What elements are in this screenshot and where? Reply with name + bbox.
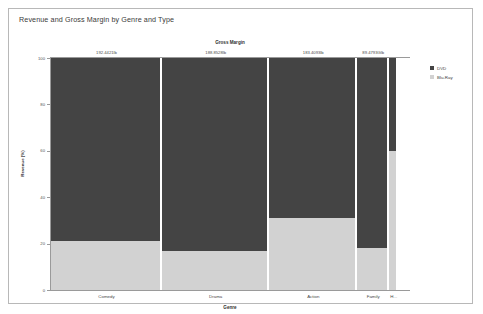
mosaic-segment-blu-ray[interactable] xyxy=(389,151,396,290)
y-tick-label: 100 xyxy=(38,56,45,61)
mosaic-column[interactable] xyxy=(51,58,160,290)
x-tick-label: Family xyxy=(357,294,389,299)
y-tick-label: 40 xyxy=(40,195,45,200)
mosaic-segment-dvd[interactable] xyxy=(389,58,396,151)
y-tick-mark xyxy=(47,151,50,152)
mosaic-plot xyxy=(51,58,409,290)
mosaic-column[interactable] xyxy=(389,58,396,290)
legend: DVDBlu-Ray xyxy=(430,65,480,83)
legend-swatch-icon xyxy=(430,66,434,70)
column-header-value: 89.4793Glb xyxy=(357,50,389,55)
y-tick-label: 60 xyxy=(40,148,45,153)
x-tick-label: Action xyxy=(269,294,357,299)
x-axis-ticks: ComedyDramaActionFamilyH... xyxy=(51,294,409,303)
legend-label: Blu-Ray xyxy=(437,75,453,80)
y-tick-label: 20 xyxy=(40,241,45,246)
mosaic-segment-dvd[interactable] xyxy=(269,58,355,218)
y-tick-mark xyxy=(47,244,50,245)
y-tick-mark xyxy=(47,104,50,105)
legend-swatch-icon xyxy=(430,75,434,79)
mosaic-segment-blu-ray[interactable] xyxy=(162,251,267,290)
y-tick-label: 80 xyxy=(40,102,45,107)
chart-panel: Revenue and Gross Margin by Genre and Ty… xyxy=(8,8,473,304)
mosaic-segment-blu-ray[interactable] xyxy=(357,248,387,290)
x-axis-line xyxy=(50,290,410,291)
mosaic-column[interactable] xyxy=(269,58,355,290)
x-tick-label: Drama xyxy=(162,294,269,299)
legend-label: DVD xyxy=(437,66,446,71)
legend-item[interactable]: Blu-Ray xyxy=(430,74,480,80)
y-axis-label: Revenue (%) xyxy=(20,134,25,194)
y-tick-label: 0 xyxy=(43,288,45,293)
mosaic-segment-blu-ray[interactable] xyxy=(51,241,160,290)
mosaic-column[interactable] xyxy=(162,58,267,290)
mosaic-segment-blu-ray[interactable] xyxy=(269,218,355,290)
y-axis-ticks: 020406080100 xyxy=(9,9,45,314)
legend-item[interactable]: DVD xyxy=(430,65,480,71)
mosaic-segment-dvd[interactable] xyxy=(162,58,267,251)
mosaic-segment-dvd[interactable] xyxy=(51,58,160,241)
column-header-value: 192.4421lb xyxy=(51,50,162,55)
mosaic-segment-dvd[interactable] xyxy=(357,58,387,248)
x-axis-label: Genre xyxy=(51,305,409,310)
x-tick-label: H... xyxy=(389,294,398,299)
y-tick-mark xyxy=(47,290,50,291)
column-header-value: 183.4093lb xyxy=(269,50,357,55)
y-tick-mark xyxy=(47,197,50,198)
column-axis-title: Gross Margin xyxy=(51,40,409,45)
x-tick-label: Comedy xyxy=(51,294,162,299)
mosaic-column[interactable] xyxy=(357,58,387,290)
y-tick-mark xyxy=(47,58,50,59)
column-header-value: 188.8528lb xyxy=(162,50,269,55)
